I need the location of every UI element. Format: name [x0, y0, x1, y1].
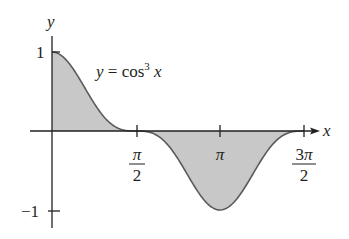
x-tick-label-pi: π [216, 145, 225, 164]
function-label: y = cos3 x [94, 60, 162, 81]
x-tick-label-pi-over-2-den: 2 [133, 166, 142, 185]
x-tick-label-3pi-over-2-den: 2 [300, 166, 309, 185]
x-tick-label-3pi-over-2-num: 3π [295, 145, 313, 164]
cos-cubed-graph: x y 1 −1 π 2 π 3π 2 y = cos3 x [0, 0, 349, 239]
x-axis-label: x [322, 121, 331, 140]
y-tick-label-1: 1 [36, 43, 45, 62]
y-axis-label: y [45, 12, 55, 31]
y-tick-label-neg1: −1 [21, 202, 39, 221]
x-tick-label-pi-over-2-num: π [133, 145, 142, 164]
